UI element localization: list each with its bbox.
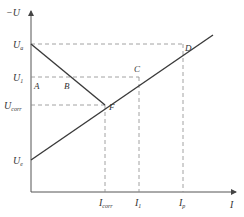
x-axis-label: I	[229, 199, 234, 210]
polarization-diagram: −U I Ua U1 Ucorr Ue Icorr I1 Ip A B C D …	[0, 0, 244, 217]
point-a-label: A	[33, 81, 40, 91]
point-f-label: F	[108, 102, 115, 112]
y-tick-ucorr: Ucorr	[4, 100, 22, 112]
ascending-polarization-line	[31, 35, 213, 160]
descending-polarization-line	[31, 44, 105, 105]
y-tick-ua: Ua	[13, 39, 23, 51]
x-tick-ip: Ip	[178, 197, 185, 209]
y-tick-u1: U1	[13, 72, 23, 84]
x-tick-i1: I1	[134, 197, 141, 209]
y-axis-label: −U	[6, 7, 21, 18]
point-c-label: C	[134, 64, 141, 74]
y-tick-ue: Ue	[13, 155, 23, 167]
point-d-label: D	[184, 43, 192, 53]
point-b-label: B	[64, 81, 70, 91]
x-tick-icorr: Icorr	[98, 197, 113, 209]
